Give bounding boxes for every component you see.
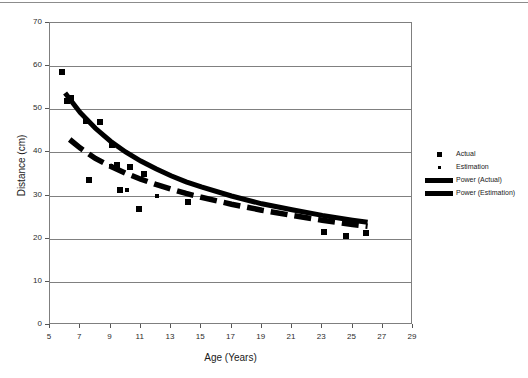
data-point-actual — [68, 95, 74, 101]
legend-item-power-estimation: Power (Estimation) — [424, 187, 524, 199]
data-point-actual — [109, 142, 115, 148]
data-point-actual — [363, 230, 369, 236]
data-point-actual — [97, 119, 103, 125]
x-tick-label-15: 15 — [185, 333, 215, 341]
data-point-actual — [185, 199, 191, 205]
y-axis-title: Distance (cm) — [16, 106, 27, 226]
x-tick-label-13: 13 — [155, 333, 185, 341]
data-point-actual — [127, 164, 133, 170]
data-point-actual — [136, 206, 142, 212]
legend-key-icon — [424, 178, 454, 183]
legend-item-actual: Actual — [424, 148, 524, 160]
x-tick-label-27: 27 — [367, 333, 397, 341]
y-tick-label-20: 20 — [8, 234, 42, 242]
data-point-actual — [343, 233, 349, 239]
legend-swatch-square-large — [437, 152, 442, 157]
data-point-actual — [83, 118, 89, 124]
legend-swatch-thick-dashed-line — [425, 191, 453, 196]
legend-label: Estimation — [454, 163, 489, 171]
figure-top-border — [0, 2, 528, 3]
y-tick-label-40: 40 — [8, 147, 42, 155]
chart-legend: ActualEstimationPower (Actual)Power (Est… — [424, 148, 524, 200]
x-axis-title: Age (Years) — [49, 352, 412, 363]
legend-key-icon — [424, 166, 454, 169]
data-point-actual — [114, 162, 120, 168]
x-tick-label-17: 17 — [216, 333, 246, 341]
y-tick-label-50: 50 — [8, 104, 42, 112]
legend-label: Power (Estimation) — [454, 189, 515, 197]
x-tick-label-7: 7 — [64, 333, 94, 341]
data-point-actual — [321, 229, 327, 235]
data-point-actual — [59, 69, 65, 75]
legend-label: Power (Actual) — [454, 176, 502, 184]
data-point-actual — [141, 171, 147, 177]
x-tick-label-9: 9 — [95, 333, 125, 341]
trendline-curves — [50, 23, 413, 325]
data-point-estimation — [109, 164, 113, 168]
data-point-actual — [86, 177, 92, 183]
legend-swatch-square-small — [438, 166, 441, 169]
x-tick-label-19: 19 — [246, 333, 276, 341]
data-point-actual — [117, 187, 123, 193]
data-point-estimation — [155, 194, 159, 198]
legend-item-power-actual: Power (Actual) — [424, 174, 524, 186]
trendline-power-actual — [65, 93, 368, 222]
x-tick-label-21: 21 — [276, 333, 306, 341]
y-tick-label-60: 60 — [8, 61, 42, 69]
plot-area — [49, 22, 412, 324]
y-tick-label-10: 10 — [8, 277, 42, 285]
x-tick-label-11: 11 — [125, 333, 155, 341]
data-point-estimation — [125, 188, 129, 192]
x-tick-label-25: 25 — [337, 333, 367, 341]
legend-key-icon — [424, 152, 454, 157]
legend-item-estimation: Estimation — [424, 161, 524, 173]
legend-swatch-thick-line — [425, 178, 453, 183]
chart-container: Distance (cm) Age (Years) 01020304050607… — [0, 0, 528, 378]
y-tick-label-0: 0 — [8, 320, 42, 328]
legend-label: Actual — [454, 150, 475, 158]
legend-key-icon — [424, 191, 454, 196]
x-tick-label-23: 23 — [306, 333, 336, 341]
x-tick-label-29: 29 — [397, 333, 427, 341]
x-tick-label-5: 5 — [34, 333, 64, 341]
y-tick-label-30: 30 — [8, 191, 42, 199]
y-tick-label-70: 70 — [8, 18, 42, 26]
